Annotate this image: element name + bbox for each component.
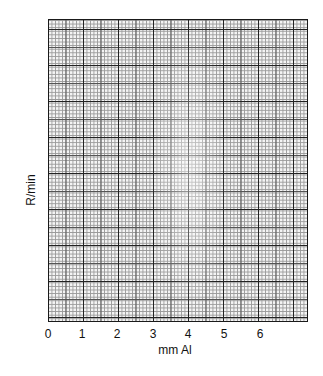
y-axis-label: R/min bbox=[24, 174, 38, 205]
x-tick-2: 2 bbox=[114, 327, 121, 341]
x-axis-label: mm Al bbox=[158, 343, 191, 357]
x-tick-3: 3 bbox=[150, 327, 157, 341]
x-tick-4: 4 bbox=[185, 327, 192, 341]
scan-glare bbox=[149, 20, 229, 321]
x-tick-0: 0 bbox=[45, 327, 52, 341]
x-tick-5: 5 bbox=[221, 327, 228, 341]
x-tick-6: 6 bbox=[257, 327, 264, 341]
x-tick-1: 1 bbox=[79, 327, 86, 341]
graph-paper-plot-area bbox=[48, 19, 308, 322]
